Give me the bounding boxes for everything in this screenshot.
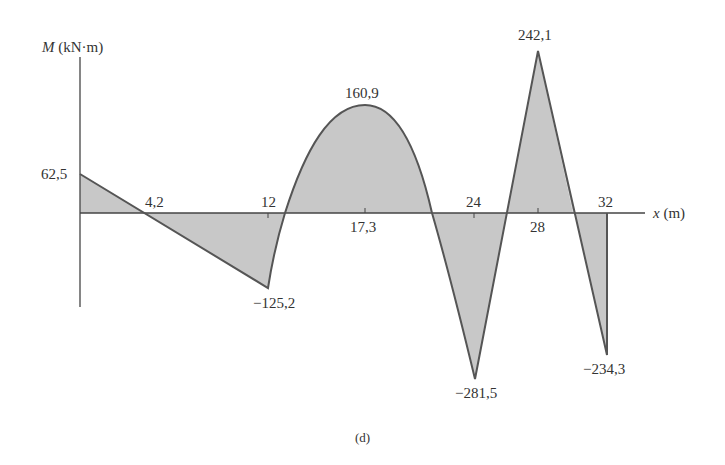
y-axis-label: M (kN·m) (41, 39, 103, 56)
label-m-at-24: −281,5 (455, 385, 497, 401)
label-m-peak-parabola: 160,9 (345, 85, 379, 101)
label-x-32: 32 (598, 194, 613, 210)
x-axis-label: x (m) (652, 205, 685, 222)
figure-caption: (d) (0, 430, 725, 446)
label-x-28: 28 (530, 219, 545, 235)
label-m-at-28: 242,1 (518, 27, 552, 43)
label-x-12: 12 (261, 194, 276, 210)
fill-span-12-24 (268, 105, 475, 379)
label-m-at-12: −125,2 (253, 295, 295, 311)
fill-span-24-28 (475, 51, 573, 379)
label-x-4-2: 4,2 (145, 194, 164, 210)
label-m-at-0: 62,5 (41, 166, 67, 182)
label-x-17-3: 17,3 (350, 219, 376, 235)
bending-moment-diagram: M (kN·m) x (m) 62,5 4,2 12 −125,2 160,9 … (0, 0, 725, 465)
label-x-24: 24 (466, 194, 482, 210)
label-m-at-32: −234,3 (583, 361, 625, 377)
